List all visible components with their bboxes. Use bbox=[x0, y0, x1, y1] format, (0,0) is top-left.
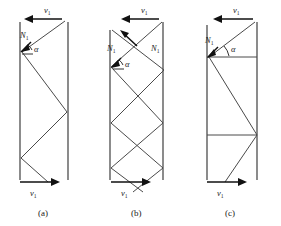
ray-segment-2 bbox=[209, 57, 257, 135]
top-velocity-arrowhead bbox=[121, 15, 130, 23]
ray-segment-2 bbox=[22, 52, 67, 112]
ray-segment-3 bbox=[21, 112, 67, 158]
top-velocity-label: v1 bbox=[44, 5, 51, 16]
bottom-velocity-arrowhead bbox=[51, 178, 60, 186]
panel-b: v1 N1 N1 α v1 (b) bbox=[93, 0, 187, 226]
panel-c: v1 N1 α v1 (c) bbox=[187, 0, 281, 226]
panel-a: v1 N1 α v1 (a) bbox=[0, 0, 94, 226]
bottom-velocity-label: v1 bbox=[121, 188, 128, 199]
angle-label-alpha: α bbox=[231, 44, 236, 54]
normal-label-n1-right: N1 bbox=[150, 43, 160, 54]
ray-segment-4 bbox=[21, 158, 48, 182]
panel-c-diagram: v1 N1 α v1 (c) bbox=[187, 0, 281, 226]
ray-segment-3 bbox=[225, 135, 257, 182]
bottom-velocity-arrowhead bbox=[238, 178, 247, 186]
figure-container: v1 N1 α v1 (a) bbox=[0, 0, 281, 226]
top-velocity-arrowhead bbox=[213, 15, 222, 23]
panel-a-diagram: v1 N1 α v1 (a) bbox=[0, 0, 94, 226]
ray-b-segment-4 bbox=[133, 168, 163, 192]
top-velocity-label: v1 bbox=[141, 5, 148, 16]
panel-c-caption: (c) bbox=[225, 208, 235, 218]
top-velocity-arrowhead bbox=[24, 15, 33, 23]
angle-label-alpha: α bbox=[125, 59, 130, 69]
bottom-velocity-label: v1 bbox=[217, 188, 224, 199]
angle-arc bbox=[224, 46, 229, 56]
normal-label-n1: N1 bbox=[204, 35, 214, 46]
panel-a-caption: (a) bbox=[38, 208, 48, 218]
panel-b-caption: (b) bbox=[131, 208, 142, 218]
bottom-velocity-label: v1 bbox=[30, 188, 37, 199]
top-velocity-label: v1 bbox=[233, 5, 240, 16]
angle-label-alpha: α bbox=[34, 44, 39, 54]
normal-label-n1: N1 bbox=[19, 30, 29, 41]
panel-b-diagram: v1 N1 N1 α v1 (b) bbox=[93, 0, 187, 226]
angle-arc bbox=[119, 60, 123, 65]
normal-label-n1-left: N1 bbox=[106, 43, 116, 54]
